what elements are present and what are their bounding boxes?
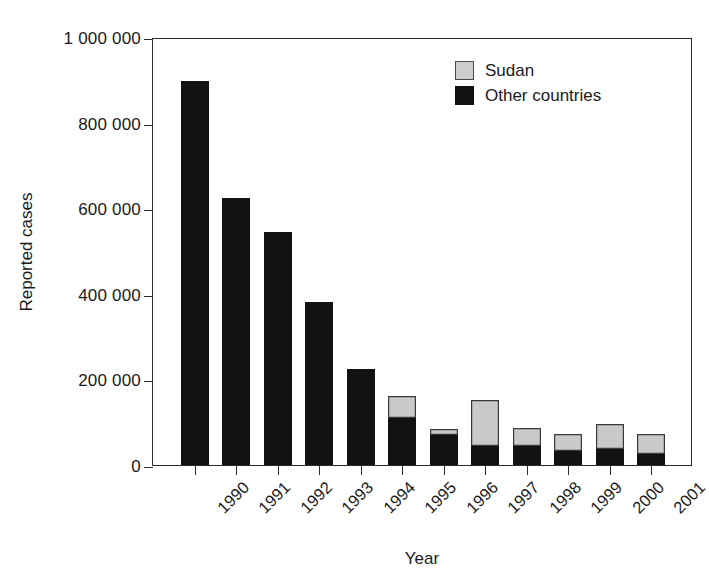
bar-segment-other-countries-1997 [471, 446, 499, 465]
x-tick-2000 [610, 465, 611, 475]
x-tick-label-1995: 1995 [421, 478, 460, 517]
x-tick-1993 [319, 465, 320, 475]
y-tick-label-800000: 800 000 [78, 115, 141, 135]
y-tick-0 [144, 467, 153, 468]
x-tick-label-1998: 1998 [546, 478, 585, 517]
x-tick-1995 [402, 465, 403, 475]
x-tick-1991 [236, 465, 237, 475]
bar-segment-sudan-2001 [637, 434, 665, 454]
y-tick-800000 [144, 125, 153, 126]
bar-1996 [430, 429, 458, 465]
bar-1993 [305, 302, 333, 465]
bar-segment-other-countries-2000 [596, 449, 624, 465]
bar-1997 [471, 400, 499, 465]
bar-segment-other-countries-1993 [305, 302, 333, 465]
bar-segment-other-countries-1994 [347, 369, 375, 465]
y-tick-label-0: 0 [131, 457, 141, 477]
x-tick-label-1994: 1994 [379, 478, 418, 517]
bar-segment-sudan-1997 [471, 400, 499, 446]
y-tick-label-1000000: 1 000 000 [64, 29, 141, 49]
bar-2000 [596, 424, 624, 465]
x-tick-label-1991: 1991 [255, 478, 294, 517]
bar-1990 [181, 81, 209, 465]
bar-1995 [388, 396, 416, 465]
x-tick-label-1999: 1999 [587, 478, 626, 517]
x-tick-label-2001: 2001 [670, 478, 709, 517]
x-tick-label-1990: 1990 [213, 478, 252, 517]
y-axis-title: Reported cases [14, 38, 40, 466]
y-tick-200000 [144, 381, 153, 382]
bar-segment-other-countries-1998 [513, 446, 541, 465]
x-tick-1999 [568, 465, 569, 475]
other-countries-swatch-icon [455, 86, 474, 105]
y-tick-600000 [144, 210, 153, 211]
bars-layer [153, 39, 691, 465]
plot-area: 0200 000400 000600 000800 0001 000 000 [152, 38, 692, 466]
y-tick-label-400000: 400 000 [78, 286, 141, 306]
bar-segment-sudan-2000 [596, 424, 624, 449]
bar-1999 [554, 434, 582, 465]
x-tick-1990 [195, 465, 196, 475]
legend-label-sudan: Sudan [485, 61, 534, 81]
bar-segment-other-countries-2001 [637, 454, 665, 465]
bar-segment-other-countries-1996 [430, 435, 458, 465]
bar-1992 [264, 232, 292, 465]
x-axis-title: Year [152, 549, 692, 569]
chart-figure: Reported cases 0200 000400 000600 000800… [0, 0, 709, 584]
x-tick-1998 [527, 465, 528, 475]
y-axis-title-label: Reported cases [17, 192, 37, 311]
bar-1994 [347, 369, 375, 465]
x-tick-label-1992: 1992 [296, 478, 335, 517]
legend-item-sudan: Sudan [455, 58, 601, 83]
x-tick-2001 [651, 465, 652, 475]
bar-segment-other-countries-1995 [388, 418, 416, 465]
x-tick-label-1996: 1996 [463, 478, 502, 517]
bar-segment-other-countries-1990 [181, 81, 209, 465]
bar-1991 [222, 198, 250, 465]
bar-2001 [637, 434, 665, 465]
x-tick-1996 [444, 465, 445, 475]
x-tick-1997 [485, 465, 486, 475]
y-tick-label-200000: 200 000 [78, 371, 141, 391]
bar-segment-other-countries-1991 [222, 198, 250, 465]
y-tick-label-600000: 600 000 [78, 200, 141, 220]
y-tick-1000000 [144, 39, 153, 40]
x-tick-label-2000: 2000 [629, 478, 668, 517]
x-tick-label-1993: 1993 [338, 478, 377, 517]
bar-segment-sudan-1995 [388, 396, 416, 418]
x-tick-1992 [278, 465, 279, 475]
legend-label-other-countries: Other countries [485, 86, 601, 106]
sudan-swatch-icon [455, 61, 474, 80]
y-tick-400000 [144, 296, 153, 297]
x-tick-label-1997: 1997 [504, 478, 543, 517]
legend-item-other-countries: Other countries [455, 83, 601, 108]
bar-segment-other-countries-1992 [264, 232, 292, 465]
bar-segment-sudan-1998 [513, 428, 541, 446]
bar-segment-other-countries-1999 [554, 451, 582, 465]
bar-1998 [513, 428, 541, 465]
bar-segment-sudan-1999 [554, 434, 582, 451]
x-tick-1994 [361, 465, 362, 475]
chart-legend: Sudan Other countries [455, 58, 601, 108]
